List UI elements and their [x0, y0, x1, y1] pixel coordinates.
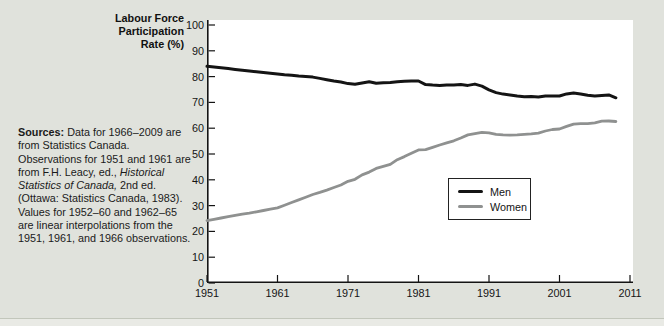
- x-tick-label: 2011: [608, 287, 652, 299]
- men-line: [207, 66, 616, 98]
- sources-note: Sources: Data for 1966–2009 are from Sta…: [18, 126, 192, 246]
- plot-area: MenWomen: [207, 20, 633, 283]
- sources-segment: Sources:: [18, 126, 64, 138]
- legend-item: Men: [458, 184, 524, 199]
- y-tick-label: 70: [168, 96, 204, 108]
- legend-line-swatch: [458, 205, 483, 209]
- legend-item: Women: [458, 199, 524, 214]
- legend-label: Men: [490, 186, 511, 198]
- y-tick-label: 60: [168, 122, 204, 134]
- x-tick-label: 1951: [185, 287, 229, 299]
- y-tick-label: 80: [168, 71, 204, 83]
- x-tick-label: 1961: [256, 287, 300, 299]
- y-tick-label: 100: [168, 19, 204, 31]
- y-tick-label: 20: [168, 225, 204, 237]
- figure-panel: Labour Force Participation Rate (%) Sour…: [0, 0, 664, 319]
- women-line: [207, 121, 616, 221]
- y-tick-label: 40: [168, 174, 204, 186]
- legend-label: Women: [490, 201, 527, 213]
- y-tick-label: 50: [168, 148, 204, 160]
- y-tick-label: 10: [168, 251, 204, 263]
- legend: MenWomen: [448, 178, 531, 220]
- x-tick-label: 1971: [326, 287, 370, 299]
- x-tick-label: 2001: [538, 287, 582, 299]
- y-tick-label: 90: [168, 45, 204, 57]
- y-tick-label: 30: [168, 200, 204, 212]
- x-tick-label: 1991: [467, 287, 511, 299]
- chart-svg: [207, 20, 633, 283]
- figure: Labour Force Participation Rate (%) Sour…: [0, 0, 664, 326]
- x-tick-label: 1981: [397, 287, 441, 299]
- legend-line-swatch: [458, 190, 483, 194]
